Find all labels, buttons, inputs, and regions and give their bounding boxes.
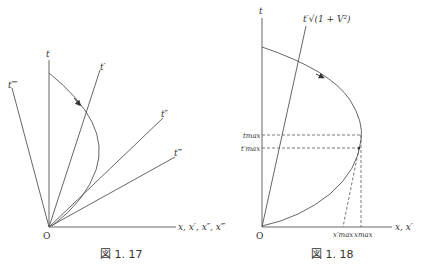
t-prime-max-label: t′max: [241, 145, 260, 153]
event-point: [358, 147, 361, 150]
diagram-canvas: t t′ t″ t‴ t⁗ x, x′, x″, x‴ O 図 1. 17 t …: [0, 0, 421, 264]
figure-1-17: t t′ t″ t‴ t⁗ x, x′, x″, x‴ O 図 1. 17: [8, 49, 226, 261]
figure-caption: 図 1. 17: [100, 248, 143, 261]
t-prime-label: t′: [100, 62, 106, 72]
x-prime-max-label: x′max: [333, 231, 353, 239]
figure-caption: 図 1. 18: [311, 248, 354, 261]
t-scaled-label: t′√(1 + V²): [303, 14, 351, 24]
figure-1-18: t t′√(1 + V²) tmax t′max xmax x′max x, x…: [241, 6, 413, 261]
origin-label: O: [43, 231, 50, 241]
direction-arrow-icon: [316, 74, 322, 77]
t-quad-prime-axis: [12, 88, 49, 227]
x-axis-label: x, x′, x″, x‴: [178, 222, 226, 232]
t-scaled-axis: [262, 26, 306, 227]
t-max-label: tmax: [243, 132, 261, 140]
t-prime-axis: [49, 70, 100, 227]
x-prime-max-guide: [343, 148, 359, 227]
t-double-prime-label: t″: [161, 109, 169, 119]
x-max-label: xmax: [354, 231, 373, 239]
t-quad-prime-label: t⁗: [8, 80, 18, 90]
t-label: t: [259, 6, 263, 16]
x-axis-label: x, x′: [395, 222, 413, 232]
t-triple-prime-label: t‴: [174, 148, 183, 158]
worldline-curve: [262, 47, 362, 226]
t-double-prime-axis: [49, 118, 163, 227]
origin-label: O: [256, 231, 263, 241]
t-label: t: [46, 49, 50, 59]
